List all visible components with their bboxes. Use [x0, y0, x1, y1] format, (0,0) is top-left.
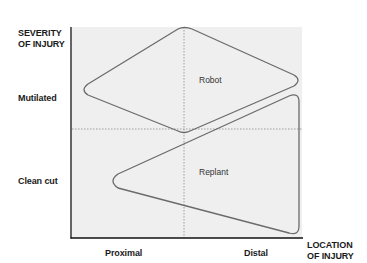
x-axis-title-line2: OF INJURY — [307, 251, 354, 262]
x-level-distal: Distal — [244, 248, 268, 259]
y-level-mutilated: Mutilated — [18, 93, 57, 104]
robot-label: Robot — [199, 75, 222, 85]
x-axis-title: LOCATION OF INJURY — [307, 240, 354, 262]
x-axis-title-line1: LOCATION — [307, 240, 354, 251]
y-axis-title-line1: SEVERITY — [18, 28, 65, 39]
y-axis-title: SEVERITY OF INJURY — [18, 28, 65, 50]
replant-label: Replant — [199, 167, 228, 177]
x-level-proximal: Proximal — [105, 248, 142, 259]
y-axis-title-line2: OF INJURY — [18, 39, 65, 50]
y-level-clean-cut: Clean cut — [18, 176, 58, 187]
